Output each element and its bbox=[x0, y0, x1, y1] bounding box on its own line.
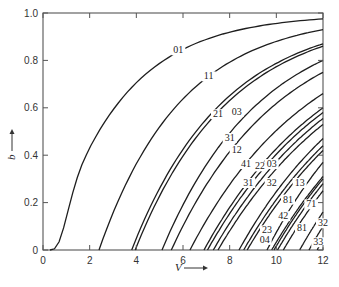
curve-label-32: 32 bbox=[267, 177, 277, 188]
curve-label-33: 33 bbox=[313, 236, 323, 247]
curve-label-11: 11 bbox=[204, 70, 214, 81]
curve-label-41: 41 bbox=[241, 158, 251, 169]
curve-labels-group: 0111210331124122033132138142230471813233 bbox=[171, 44, 330, 247]
curve-label-01: 01 bbox=[173, 44, 183, 55]
y-tick-label: 0 bbox=[32, 245, 38, 256]
y-axis-title-text: b bbox=[5, 154, 17, 160]
mode-curve-03 bbox=[135, 46, 323, 250]
y-tick-label: 0.4 bbox=[24, 150, 38, 161]
curve-label-71: 71 bbox=[306, 198, 316, 209]
curve-label-03: 03 bbox=[232, 106, 242, 117]
x-axis-title: V bbox=[175, 261, 208, 273]
curve-label-32: 32 bbox=[318, 217, 328, 228]
x-tick-label: 12 bbox=[317, 255, 329, 266]
curve-label-21: 21 bbox=[213, 108, 223, 119]
curve-label-42: 42 bbox=[278, 210, 288, 221]
x-tick-label: 8 bbox=[227, 255, 233, 266]
curve-label-81: 81 bbox=[297, 222, 307, 233]
y-axis-title: b bbox=[5, 129, 17, 160]
x-tick-label: 10 bbox=[271, 255, 283, 266]
curve-label-12: 12 bbox=[232, 144, 242, 155]
chart-plot: 0111210331124122033132138142230471813233… bbox=[0, 0, 339, 287]
curve-label-81: 81 bbox=[283, 194, 293, 205]
x-tick-label: 4 bbox=[134, 255, 140, 266]
curve-label-03: 03 bbox=[267, 158, 277, 169]
x-tick-label: 2 bbox=[87, 255, 93, 266]
curve-label-04: 04 bbox=[260, 234, 270, 245]
curve-label-31: 31 bbox=[225, 132, 235, 143]
curve-label-31: 31 bbox=[243, 177, 253, 188]
x-arrowhead-icon bbox=[203, 266, 208, 271]
y-tick-label: 0.8 bbox=[24, 55, 38, 66]
curve-label-22: 22 bbox=[255, 160, 265, 171]
curve-label-13: 13 bbox=[295, 177, 305, 188]
x-tick-label: 0 bbox=[40, 255, 46, 266]
y-tick-label: 0.6 bbox=[24, 102, 38, 113]
y-tick-label: 0.2 bbox=[24, 197, 38, 208]
y-arrowhead-icon bbox=[10, 129, 15, 134]
y-tick-label: 1.0 bbox=[24, 8, 38, 19]
mode-curve-21 bbox=[132, 44, 323, 250]
